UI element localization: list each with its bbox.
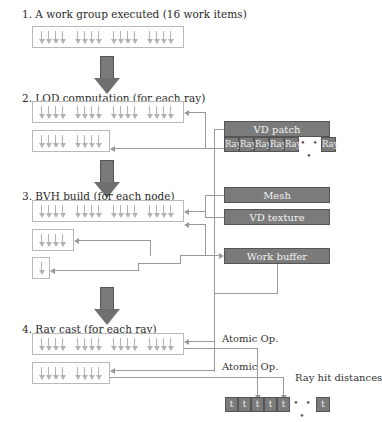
connector: [205, 217, 224, 218]
connector: [205, 224, 206, 256]
work-item-group: [74, 337, 102, 351]
work-item-arrow-icon: [131, 105, 138, 119]
work-item-arrow-icon: [74, 366, 81, 380]
connector: [184, 348, 258, 349]
ellipsis: • • •: [299, 137, 321, 163]
work-item-arrow-icon: [124, 30, 131, 44]
step-1-label: 1. A work group executed (16 work items): [22, 8, 247, 20]
connector: [114, 370, 215, 371]
work-item-arrow-icon: [38, 261, 45, 275]
work-item-arrow-icon: [117, 337, 124, 351]
work-item-arrow-icon: [153, 337, 160, 351]
work-item-group: [38, 261, 45, 275]
work-item-group: [38, 105, 66, 119]
connector: [150, 240, 151, 256]
vd-patch-rays: Ray Ray Ray Ray Ray • • • Ray: [224, 137, 336, 163]
connector: [188, 224, 206, 225]
work-group-raycast-8: [32, 362, 110, 384]
work-item-arrow-icon: [59, 233, 66, 247]
work-item-arrow-icon: [88, 366, 95, 380]
work-item-arrow-icon: [95, 30, 102, 44]
work-group-bvh-4: [32, 229, 74, 251]
work-item-arrow-icon: [52, 134, 59, 148]
arrowhead: [184, 222, 189, 228]
mesh-resource: Mesh: [224, 187, 330, 203]
connector: [54, 270, 139, 271]
ray-cell-last: Ray: [321, 137, 336, 152]
connector: [138, 263, 181, 264]
work-item-arrow-icon: [74, 134, 81, 148]
ray-cell: Ray: [269, 137, 284, 152]
work-item-arrow-icon: [110, 105, 117, 119]
work-item-arrow-icon: [88, 30, 95, 44]
connector: [110, 377, 284, 378]
work-group-lod-16: [32, 101, 184, 123]
arrowhead: [184, 339, 189, 345]
t-cell: t: [277, 397, 290, 412]
work-item-arrow-icon: [45, 134, 52, 148]
work-item-arrow-icon: [38, 105, 45, 119]
work-group-bvh-16: [32, 200, 184, 222]
work-item-arrow-icon: [59, 366, 66, 380]
work-item-arrow-icon: [81, 105, 88, 119]
work-item-arrow-icon: [95, 105, 102, 119]
work-item-arrow-icon: [95, 366, 102, 380]
connector: [205, 195, 206, 218]
ellipsis: • • •: [290, 397, 316, 422]
work-item-group: [38, 337, 66, 351]
t-cell: t: [264, 397, 277, 412]
work-item-arrow-icon: [88, 134, 95, 148]
work-item-arrow-icon: [88, 337, 95, 351]
arrowhead: [74, 238, 79, 244]
arrowhead: [184, 110, 189, 116]
work-item-arrow-icon: [45, 233, 52, 247]
work-item-arrow-icon: [160, 204, 167, 218]
work-item-arrow-icon: [110, 30, 117, 44]
work-item-arrow-icon: [167, 105, 174, 119]
work-item-arrow-icon: [131, 204, 138, 218]
work-item-arrow-icon: [81, 366, 88, 380]
work-item-arrow-icon: [117, 105, 124, 119]
atomic-op-label-2: Atomic Op.: [222, 361, 278, 372]
work-item-arrow-icon: [45, 204, 52, 218]
connector: [277, 264, 278, 294]
work-item-arrow-icon: [52, 204, 59, 218]
work-item-arrow-icon: [160, 337, 167, 351]
connector: [180, 255, 181, 264]
connector: [214, 293, 278, 294]
work-item-arrow-icon: [124, 105, 131, 119]
connector: [214, 129, 224, 130]
work-group-16-items: [32, 26, 184, 48]
work-item-arrow-icon: [160, 30, 167, 44]
work-item-arrow-icon: [38, 233, 45, 247]
connector: [180, 255, 220, 256]
work-item-group: [38, 233, 66, 247]
work-item-group: [74, 105, 102, 119]
t-cell-last: t: [316, 397, 330, 412]
work-item-arrow-icon: [59, 105, 66, 119]
work-buffer-resource: Work buffer: [224, 248, 330, 264]
work-item-arrow-icon: [38, 366, 45, 380]
work-item-arrow-icon: [59, 134, 66, 148]
t-cell: t: [251, 397, 264, 412]
connector: [283, 377, 284, 396]
work-item-arrow-icon: [117, 204, 124, 218]
flow-arrow-1: [94, 56, 120, 96]
work-item-arrow-icon: [74, 105, 81, 119]
work-item-arrow-icon: [59, 337, 66, 351]
work-item-arrow-icon: [146, 204, 153, 218]
arrowhead: [184, 209, 189, 215]
work-item-arrow-icon: [52, 337, 59, 351]
vd-texture-resource: VD texture: [224, 209, 330, 225]
work-item-arrow-icon: [153, 30, 160, 44]
work-item-arrow-icon: [95, 204, 102, 218]
work-item-arrow-icon: [45, 105, 52, 119]
work-item-group: [38, 204, 66, 218]
vd-patch-resource: VD patch: [224, 121, 330, 137]
work-group-raycast-16: [32, 333, 184, 355]
arrowhead: [50, 268, 55, 274]
work-item-arrow-icon: [45, 366, 52, 380]
connector: [257, 348, 258, 396]
work-item-arrow-icon: [38, 204, 45, 218]
atomic-op-label-1: Atomic Op.: [222, 333, 278, 344]
